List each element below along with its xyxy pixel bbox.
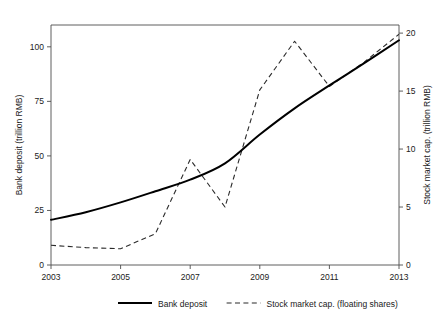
x-tick-label: 2003 <box>42 272 61 282</box>
left-y-axis-title: Bank deposit (trillion RMB) <box>14 95 24 196</box>
right-y-tick-label: 10 <box>406 144 416 154</box>
legend-label-2: Stock market cap. (floating shares) <box>267 299 399 309</box>
left-y-tick-label: 0 <box>39 260 44 270</box>
right-y-tick-label: 20 <box>406 28 416 38</box>
x-tick-label: 2009 <box>250 272 269 282</box>
right-y-tick-label: 5 <box>406 202 411 212</box>
left-y-tick-label: 75 <box>35 96 45 106</box>
x-tick-label: 2011 <box>320 272 339 282</box>
left-y-tick-label: 25 <box>35 205 45 215</box>
left-y-tick-label: 50 <box>35 151 45 161</box>
x-tick-label: 2005 <box>111 272 130 282</box>
x-tick-label: 2013 <box>390 272 409 282</box>
right-y-tick-label: 15 <box>406 86 416 96</box>
right-y-axis-title: Stock market cap. (trillion RMB) <box>422 85 432 205</box>
legend-label-1: Bank deposit <box>158 299 208 309</box>
chart-figure: 0255075100 Bank deposit (trillion RMB) 0… <box>0 0 441 322</box>
figure-background <box>0 0 441 322</box>
right-y-tick-label: 0 <box>406 260 411 270</box>
left-y-tick-label: 100 <box>30 42 44 52</box>
x-tick-label: 2007 <box>181 272 200 282</box>
right-y-axis-title-text: Stock market cap. (trillion RMB) <box>422 85 432 205</box>
left-y-axis-title-text: Bank deposit (trillion RMB) <box>14 95 24 196</box>
